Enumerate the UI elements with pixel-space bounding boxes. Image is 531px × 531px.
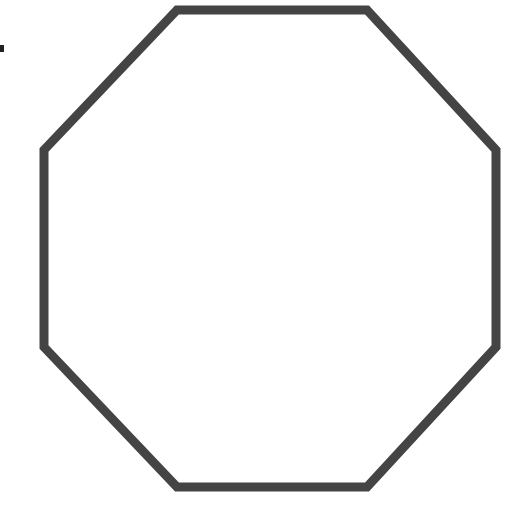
octagon-diagram bbox=[0, 0, 531, 531]
octagon-shape bbox=[44, 10, 496, 487]
diagram-canvas bbox=[0, 0, 531, 531]
